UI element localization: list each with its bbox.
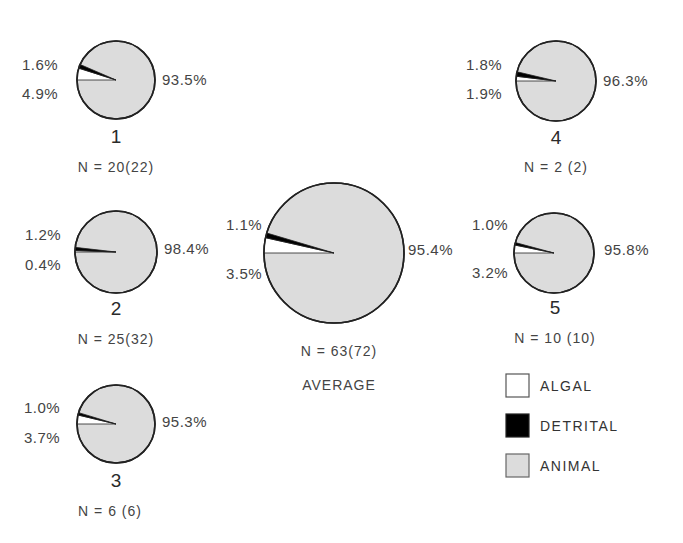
- pie-3-animal-label: 95.3%: [162, 413, 207, 430]
- pie-average-algal-label: 3.5%: [226, 265, 262, 282]
- pie-2-animal-label: 98.4%: [164, 240, 209, 257]
- legend-label-detrital: DETRITAL: [540, 418, 619, 434]
- pie-4-number: 4: [551, 127, 562, 148]
- pie-4-slices: [516, 41, 596, 121]
- pie-5-algal-label: 3.2%: [472, 264, 508, 281]
- pie-1-number: 1: [111, 126, 122, 147]
- pie-2-detrital-label: 1.2%: [25, 226, 61, 243]
- legend-item-detrital: DETRITAL: [506, 414, 619, 437]
- legend: ALGAL DETRITAL ANIMAL: [506, 374, 619, 477]
- pie-5: 1.0% 3.2% 95.8% 5 N = 10 (10): [472, 213, 649, 346]
- pie-average-n-label: N = 63(72): [301, 343, 378, 359]
- pie-3-algal-label: 3.7%: [24, 429, 60, 446]
- pie-3-n-label: N = 6 (6): [78, 503, 142, 519]
- pie-average-detrital-label: 1.1%: [226, 216, 262, 233]
- pie-4: 1.8% 1.9% 96.3% 4 N = 2 (2): [466, 41, 648, 175]
- pie-2-slices: [75, 211, 157, 293]
- pie-1-slices: [77, 41, 155, 119]
- pie-4-n-label: N = 2 (2): [524, 159, 588, 175]
- pie-2-algal-label: 0.4%: [25, 256, 61, 273]
- legend-swatch-animal: [506, 454, 529, 477]
- pie-average-title: AVERAGE: [302, 377, 376, 393]
- pie-3: 1.0% 3.7% 95.3% 3 N = 6 (6): [24, 385, 207, 519]
- legend-item-animal: ANIMAL: [506, 454, 601, 477]
- pie-1: 1.6% 4.9% 93.5% 1 N = 20(22): [22, 41, 207, 175]
- pie-3-detrital-label: 1.0%: [24, 399, 60, 416]
- pie-4-algal-label: 1.9%: [466, 85, 502, 102]
- pie-1-n-label: N = 20(22): [78, 159, 155, 175]
- pie-2: 1.2% 0.4% 98.4% 2 N = 25(32): [25, 211, 209, 347]
- pie-4-animal-label: 96.3%: [603, 72, 648, 89]
- pie-5-animal-label: 95.8%: [604, 241, 649, 258]
- pie-1-animal-label: 93.5%: [162, 71, 207, 88]
- legend-label-algal: ALGAL: [540, 378, 593, 394]
- pie-average-slices: [264, 183, 404, 323]
- pie-3-slices: [77, 385, 155, 463]
- pie-5-number: 5: [550, 297, 561, 318]
- pie-5-slices: [514, 213, 594, 293]
- pie-5-n-label: N = 10 (10): [514, 330, 595, 346]
- pie-4-detrital-label: 1.8%: [466, 56, 502, 73]
- pie-2-n-label: N = 25(32): [78, 331, 155, 347]
- pie-5-detrital-label: 1.0%: [472, 216, 508, 233]
- pie-average-animal-label: 95.4%: [408, 241, 453, 258]
- legend-swatch-detrital: [506, 414, 529, 437]
- pie-average: 1.1% 3.5% 95.4% N = 63(72) AVERAGE: [226, 183, 453, 393]
- legend-label-animal: ANIMAL: [540, 458, 601, 474]
- legend-swatch-algal: [506, 374, 529, 397]
- legend-item-algal: ALGAL: [506, 374, 593, 397]
- pie-1-detrital-label: 1.6%: [22, 56, 58, 73]
- pie-3-number: 3: [111, 470, 122, 491]
- pie-2-number: 2: [111, 298, 122, 319]
- pie-chart-figure: 1.6% 4.9% 93.5% 1 N = 20(22) 1.8% 1.9% 9…: [0, 0, 683, 543]
- pie-1-algal-label: 4.9%: [22, 85, 58, 102]
